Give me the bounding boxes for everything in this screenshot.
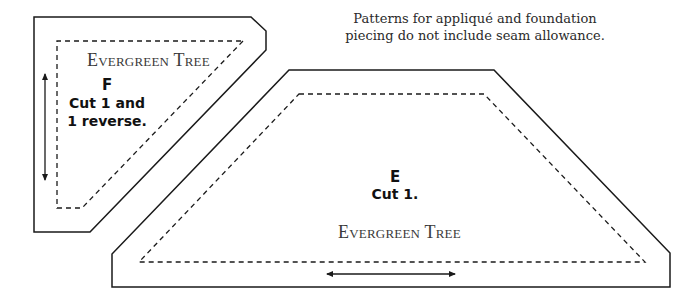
note-line-2: piecing do not include seam allowance. bbox=[330, 27, 620, 44]
piece-f-cut-line-2: 1 reverse. bbox=[62, 112, 152, 130]
note-line-1: Patterns for appliqué and foundation bbox=[330, 10, 620, 27]
pattern-canvas bbox=[0, 0, 700, 303]
seam-allowance-note: Patterns for appliqué and foundation pie… bbox=[330, 10, 620, 44]
piece-e-letter: E bbox=[355, 168, 435, 186]
piece-f-name: Evergreen Tree bbox=[87, 50, 210, 71]
piece-e-name: Evergreen Tree bbox=[338, 222, 461, 243]
piece-f-cut-instructions: Cut 1 and 1 reverse. bbox=[62, 94, 152, 130]
piece-f-letter: F bbox=[72, 76, 142, 94]
piece-f-cut-line-1: Cut 1 and bbox=[62, 94, 152, 112]
piece-e-cut-instructions: Cut 1. bbox=[355, 186, 435, 202]
